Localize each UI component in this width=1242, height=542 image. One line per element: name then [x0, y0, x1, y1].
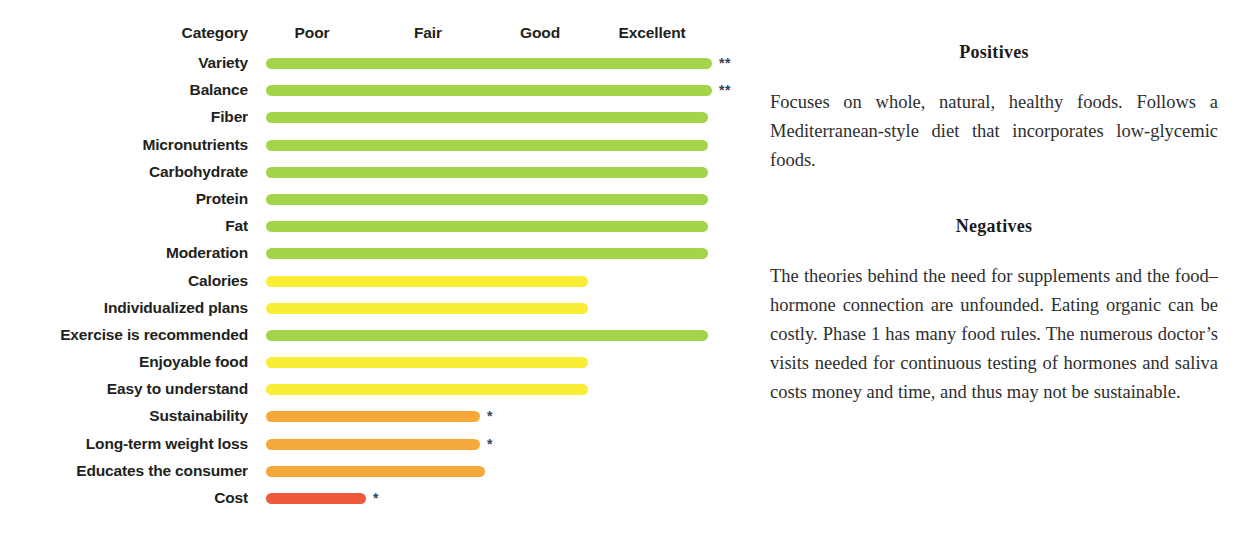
positives-heading: Positives	[770, 42, 1218, 63]
scale-header-poor: Poor	[295, 24, 330, 42]
scale-header-excellent: Excellent	[618, 24, 685, 42]
rating-bar	[266, 58, 712, 69]
chart-row: Easy to understand	[0, 380, 745, 407]
rating-bar	[266, 384, 588, 395]
chart-header-row: Category PoorFairGoodExcellent	[0, 24, 745, 46]
rating-bar	[266, 167, 708, 178]
bar-track: *	[266, 411, 745, 422]
bar-track: *	[266, 493, 745, 504]
bar-track	[266, 466, 745, 477]
row-label: Micronutrients	[142, 136, 248, 154]
category-column-header: Category	[182, 24, 248, 42]
bar-track	[266, 357, 745, 368]
row-label: Balance	[190, 81, 248, 99]
row-label: Cost	[214, 489, 248, 507]
row-label: Moderation	[166, 244, 248, 262]
bar-track	[266, 194, 745, 205]
chart-row: Fiber	[0, 108, 745, 135]
bar-track	[266, 330, 745, 341]
negatives-heading: Negatives	[770, 216, 1218, 237]
row-label: Enjoyable food	[139, 353, 248, 371]
row-label: Fat	[225, 217, 248, 235]
bar-track	[266, 221, 745, 232]
row-label: Sustainability	[149, 407, 248, 425]
rating-bar	[266, 194, 708, 205]
bar-track	[266, 248, 745, 259]
footnote-marker: **	[719, 55, 731, 71]
diet-rating-figure: Category PoorFairGoodExcellent Variety**…	[0, 0, 1242, 542]
bar-track	[266, 303, 745, 314]
chart-row: Exercise is recommended	[0, 326, 745, 353]
footnote-marker: **	[719, 82, 731, 98]
row-label: Easy to understand	[107, 380, 248, 398]
rating-bar	[266, 330, 708, 341]
row-label: Carbohydrate	[149, 163, 248, 181]
chart-row: Educates the consumer	[0, 462, 745, 489]
row-label: Educates the consumer	[76, 462, 248, 480]
scale-header-fair: Fair	[414, 24, 442, 42]
chart-row: Moderation	[0, 244, 745, 271]
chart-row: Carbohydrate	[0, 163, 745, 190]
chart-rows: Variety**Balance**FiberMicronutrientsCar…	[0, 54, 745, 516]
commentary-panel: Positives Focuses on whole, natural, hea…	[770, 0, 1218, 542]
rating-bar	[266, 411, 480, 422]
bar-track	[266, 167, 745, 178]
rating-bar	[266, 439, 480, 450]
footnote-marker: *	[487, 408, 493, 424]
row-label: Exercise is recommended	[60, 326, 248, 344]
bar-track	[266, 140, 745, 151]
bar-track: **	[266, 58, 745, 69]
chart-row: Protein	[0, 190, 745, 217]
bar-track	[266, 276, 745, 287]
positives-text: Focuses on whole, natural, healthy foods…	[770, 88, 1218, 175]
rating-bar	[266, 140, 708, 151]
chart-row: Micronutrients	[0, 136, 745, 163]
bar-track: *	[266, 439, 745, 450]
chart-row: Calories	[0, 272, 745, 299]
row-label: Protein	[196, 190, 248, 208]
rating-bar	[266, 303, 588, 314]
row-label: Calories	[188, 272, 248, 290]
rating-bar	[266, 221, 708, 232]
bar-track	[266, 384, 745, 395]
rating-bar	[266, 276, 588, 287]
footnote-marker: *	[487, 436, 493, 452]
chart-row: Fat	[0, 217, 745, 244]
rating-bar	[266, 112, 708, 123]
scale-header-good: Good	[520, 24, 560, 42]
footnote-marker: *	[373, 490, 379, 506]
chart-row: Balance**	[0, 81, 745, 108]
chart-row: Individualized plans	[0, 299, 745, 326]
row-label: Long-term weight loss	[86, 435, 248, 453]
chart-row: Cost*	[0, 489, 745, 516]
rating-bar	[266, 466, 485, 477]
bar-track: **	[266, 85, 745, 96]
rating-bar	[266, 248, 708, 259]
rating-chart: Category PoorFairGoodExcellent Variety**…	[0, 0, 745, 542]
rating-bar	[266, 493, 366, 504]
chart-row: Sustainability*	[0, 407, 745, 434]
row-label: Variety	[198, 54, 248, 72]
chart-row: Long-term weight loss*	[0, 435, 745, 462]
row-label: Fiber	[211, 108, 248, 126]
negatives-text: The theories behind the need for supplem…	[770, 262, 1218, 407]
row-label: Individualized plans	[104, 299, 248, 317]
bar-track	[266, 112, 745, 123]
rating-bar	[266, 357, 588, 368]
chart-row: Variety**	[0, 54, 745, 81]
rating-bar	[266, 85, 712, 96]
chart-row: Enjoyable food	[0, 353, 745, 380]
